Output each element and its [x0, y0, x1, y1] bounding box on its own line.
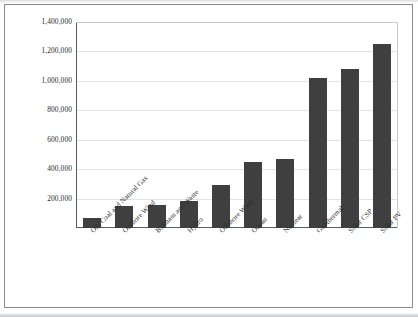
bar — [309, 78, 327, 228]
x-axis: Oil, Coal and Natural GasOnshore WindBio… — [76, 229, 398, 313]
y-axis: 200,000400,000600,000800,0001,000,0001,2… — [0, 0, 72, 317]
y-axis-tick-label: 1,000,000 — [2, 77, 72, 85]
scan-edge-bottom — [0, 313, 418, 317]
bar — [341, 69, 359, 228]
scan-edge-top — [0, 0, 418, 3]
y-axis-tick-label: 600,000 — [2, 136, 72, 144]
y-axis-tick-label: 800,000 — [2, 106, 72, 114]
y-axis-tick-label: 200,000 — [2, 195, 72, 203]
bar — [373, 44, 391, 228]
y-axis-tick-label: 400,000 — [2, 165, 72, 173]
y-axis-tick-label: 1,200,000 — [2, 47, 72, 55]
y-axis-tick-label: 1,400,000 — [2, 18, 72, 26]
chart-figure: 200,000400,000600,000800,0001,000,0001,2… — [0, 0, 418, 317]
